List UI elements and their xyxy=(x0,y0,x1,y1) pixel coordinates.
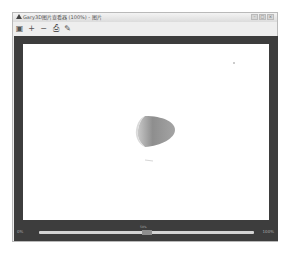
close-button[interactable]: × xyxy=(267,14,274,20)
slider-min-label: 0% xyxy=(17,229,23,234)
zoom-out-icon: − xyxy=(40,24,47,33)
app-icon xyxy=(16,14,22,19)
toolbar: ▣ + − ⎙ ✎ xyxy=(13,22,277,35)
save-button[interactable]: ▣ xyxy=(15,24,24,33)
status-bar: 0% 50% 100% xyxy=(14,224,278,241)
slider-value-label: 50% xyxy=(140,225,147,229)
viewer-frame: 0% 50% 100% xyxy=(14,36,278,241)
image-canvas[interactable] xyxy=(23,44,269,220)
window-controls: – □ × xyxy=(251,14,274,20)
image-speck xyxy=(233,62,235,64)
zoom-out-button[interactable]: − xyxy=(39,24,48,33)
title-bar[interactable]: Gary3D图片查看器 (100%) - 图片 – □ × xyxy=(13,13,277,22)
window-title: Gary3D图片查看器 (100%) - 图片 xyxy=(23,13,102,22)
maximize-button[interactable]: □ xyxy=(259,14,266,20)
minimize-button[interactable]: – xyxy=(251,14,258,20)
zoom-in-icon: + xyxy=(28,24,35,33)
save-icon: ▣ xyxy=(16,24,24,33)
3d-shape-image xyxy=(41,106,201,166)
image-viewer-window: Gary3D图片查看器 (100%) - 图片 – □ × ▣ + − ⎙ ✎ xyxy=(12,12,278,242)
pencil-icon: ✎ xyxy=(64,24,71,33)
print-button[interactable]: ⎙ xyxy=(51,24,60,33)
edit-button[interactable]: ✎ xyxy=(63,24,72,33)
slider-max-label: 100% xyxy=(263,229,274,234)
print-icon: ⎙ xyxy=(53,24,59,33)
zoom-slider-thumb[interactable]: 50% xyxy=(142,230,152,235)
zoom-in-button[interactable]: + xyxy=(27,24,36,33)
zoom-slider[interactable]: 50% xyxy=(39,231,254,234)
